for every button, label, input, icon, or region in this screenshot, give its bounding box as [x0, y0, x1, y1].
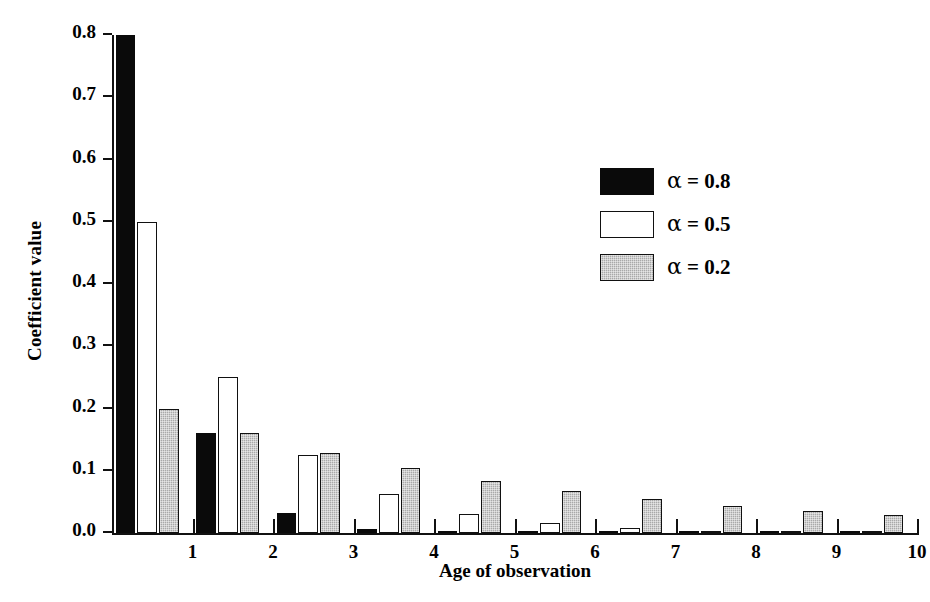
y-tick-label: 0.8	[72, 21, 96, 43]
bar	[781, 531, 801, 533]
bar	[760, 531, 780, 533]
y-axis-title: Coefficient value	[24, 161, 46, 421]
bar	[562, 491, 582, 533]
bar	[481, 481, 501, 533]
bar	[540, 523, 560, 533]
y-tick: 0.5	[103, 220, 112, 222]
bar-chart: Coefficient value 0.00.10.20.30.40.50.60…	[0, 0, 930, 602]
y-tick-label: 0.2	[72, 395, 96, 417]
y-tick: 0.6	[103, 158, 112, 160]
legend-label: α = 0.5	[667, 211, 731, 237]
legend-swatch-icon	[600, 254, 654, 281]
bar	[196, 433, 216, 533]
y-tick: 0.4	[103, 282, 112, 284]
x-tick	[676, 519, 678, 535]
legend-item[interactable]: α = 0.2	[600, 249, 815, 285]
bar	[320, 453, 340, 533]
y-tick-label: 0.4	[72, 270, 96, 292]
y-tick-label: 0.6	[72, 146, 96, 168]
bar	[862, 531, 882, 533]
y-tick-label: 0.3	[72, 332, 96, 354]
x-tick	[434, 519, 436, 535]
y-tick-label: 0.0	[72, 519, 96, 541]
x-tick	[515, 519, 517, 535]
legend-swatch-icon	[600, 168, 654, 195]
y-tick: 0.0	[103, 531, 112, 533]
bar	[401, 468, 421, 533]
x-tick	[595, 519, 597, 535]
bar	[159, 409, 179, 534]
x-tick	[756, 519, 758, 535]
y-tick-label: 0.7	[72, 83, 96, 105]
bar	[277, 513, 297, 533]
bar	[459, 514, 479, 533]
x-tick	[193, 519, 195, 535]
bar	[240, 433, 260, 533]
bar	[218, 377, 238, 533]
bar	[642, 499, 662, 533]
legend-item[interactable]: α = 0.8	[600, 163, 815, 199]
bar	[438, 531, 458, 533]
y-tick: 0.2	[103, 407, 112, 409]
y-tick: 0.1	[103, 469, 112, 471]
bar	[723, 506, 743, 533]
y-tick-label: 0.1	[72, 457, 96, 479]
legend-label: α = 0.2	[667, 254, 731, 280]
bar	[884, 515, 904, 533]
legend-swatch-icon	[600, 211, 654, 238]
bar	[518, 531, 538, 533]
bar	[679, 531, 699, 533]
bar	[599, 531, 619, 533]
y-tick: 0.8	[103, 33, 112, 35]
bar	[357, 529, 377, 533]
bar	[701, 531, 721, 533]
bar	[137, 222, 157, 533]
legend-item[interactable]: α = 0.5	[600, 206, 815, 242]
legend-label: α = 0.8	[667, 168, 731, 194]
y-tick: 0.7	[103, 95, 112, 97]
y-tick-label: 0.5	[72, 208, 96, 230]
x-tick	[354, 519, 356, 535]
bar	[379, 494, 399, 533]
bar	[840, 531, 860, 533]
chart-legend: α = 0.8α = 0.5α = 0.2	[600, 163, 815, 292]
y-tick: 0.3	[103, 344, 112, 346]
bar	[116, 35, 136, 533]
x-tick	[917, 519, 919, 535]
y-axis-line	[112, 35, 114, 534]
bar	[298, 455, 318, 533]
x-axis-title: Age of observation	[110, 560, 920, 582]
x-tick	[837, 519, 839, 535]
bar	[620, 528, 640, 533]
x-tick	[273, 519, 275, 535]
bar	[803, 511, 823, 533]
